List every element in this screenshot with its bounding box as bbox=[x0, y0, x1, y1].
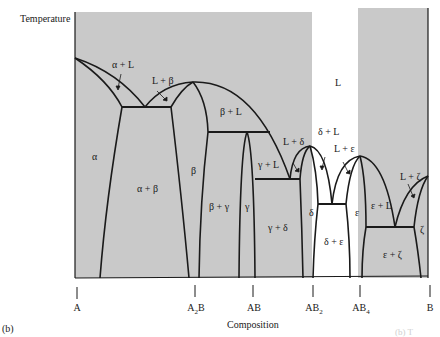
label-beta-plus-L: β + L bbox=[220, 107, 242, 117]
label-alpha: α bbox=[92, 152, 97, 162]
y-axis-title: Temperature bbox=[20, 13, 70, 24]
tick-label-AB: AB bbox=[247, 302, 261, 313]
white-pocket-delta-epsilon bbox=[312, 160, 358, 278]
tick-label-A2B: A2B bbox=[187, 302, 204, 316]
label-L-plus-beta: L + β bbox=[152, 76, 173, 86]
label-delta-plus-L: δ + L bbox=[318, 127, 339, 137]
x-axis-title: Composition bbox=[227, 319, 279, 330]
label-gamma: γ bbox=[245, 202, 249, 212]
label-liquid: L bbox=[335, 78, 341, 88]
label-gamma-plus-delta: γ + δ bbox=[268, 223, 288, 233]
tick-label-AB4: AB4 bbox=[352, 302, 369, 316]
faded-caption-fragment: (b) T bbox=[395, 327, 413, 337]
label-delta: δ bbox=[309, 208, 314, 218]
gray-panel-right bbox=[358, 8, 428, 278]
label-L-plus-delta: L + δ bbox=[283, 137, 304, 147]
panel-label: (b) bbox=[2, 323, 14, 334]
label-epsilon-plus-L: ε + L bbox=[371, 201, 392, 211]
label-epsilon-plus-zeta: ε + ζ bbox=[383, 250, 402, 260]
label-beta: β bbox=[191, 166, 196, 176]
tick-label-A: A bbox=[73, 302, 80, 313]
label-zeta: ζ bbox=[420, 225, 424, 235]
label-beta-plus-gamma: β + γ bbox=[209, 202, 229, 212]
x-ticks bbox=[77, 285, 430, 299]
tick-label-B: B bbox=[427, 302, 434, 313]
label-L-plus-epsilon: L + ε bbox=[334, 144, 355, 154]
label-alpha-plus-beta: α + β bbox=[137, 184, 158, 194]
label-delta-plus-epsilon: δ + ε bbox=[324, 237, 344, 247]
label-alpha-plus-L: α + L bbox=[112, 60, 134, 70]
tick-label-AB2: AB2 bbox=[305, 302, 322, 316]
label-gamma-plus-L: γ + L bbox=[258, 160, 279, 170]
label-L-plus-zeta: L + ζ bbox=[400, 172, 421, 182]
label-epsilon: ε bbox=[355, 208, 359, 218]
